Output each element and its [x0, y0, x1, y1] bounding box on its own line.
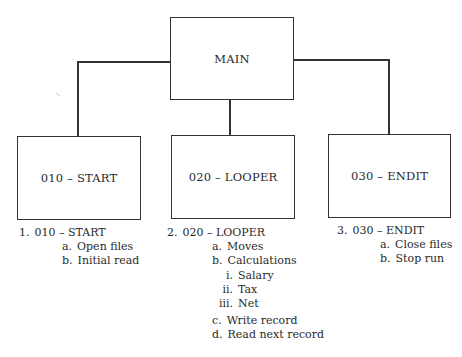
stray-mark: [55, 92, 60, 97]
connector-main-to-start-horizontal: [77, 61, 171, 63]
outline-endit: 3.030 – ENDIT a.Close files b.Stop run: [337, 224, 452, 266]
outline-item: a.Close files: [337, 238, 452, 252]
outline-item: b.Calculations: [167, 254, 324, 268]
outline-looper: 2.020 – LOOPER a.Moves b.Calculations i.…: [167, 226, 324, 342]
connector-main-to-endit-horizontal: [292, 59, 390, 61]
node-main: MAIN: [170, 17, 294, 100]
outline-item: b.Initial read: [19, 254, 139, 268]
connector-main-to-looper-vertical: [229, 98, 231, 136]
outline-heading: 1.010 – START: [19, 226, 139, 240]
node-endit: 030 – ENDIT: [328, 134, 451, 218]
connector-main-to-start-vertical: [77, 61, 79, 137]
outline-number: 1.: [19, 226, 30, 240]
node-looper-label: 020 – LOOPER: [189, 170, 278, 184]
node-looper: 020 – LOOPER: [171, 135, 295, 219]
outline-item: c.Write record: [167, 314, 324, 328]
outline-subitem: i.Salary: [167, 269, 324, 283]
outline-item: a.Moves: [167, 240, 324, 254]
outline-subitem: iii.Net: [167, 297, 324, 311]
node-main-label: MAIN: [214, 52, 250, 66]
outline-subitem: ii.Tax: [167, 283, 324, 297]
outline-title: 010 – START: [35, 226, 106, 239]
node-endit-label: 030 – ENDIT: [351, 169, 428, 183]
outline-item: a.Open files: [19, 240, 139, 254]
outline-title: 030 – ENDIT: [353, 224, 425, 237]
connector-main-to-endit-vertical: [388, 59, 390, 135]
outline-number: 3.: [337, 224, 348, 238]
node-start-label: 010 – START: [41, 171, 118, 185]
outline-number: 2.: [167, 226, 178, 240]
outline-start: 1.010 – START a.Open files b.Initial rea…: [19, 226, 139, 268]
outline-item: b.Stop run: [337, 252, 452, 266]
outline-heading: 2.020 – LOOPER: [167, 226, 324, 240]
outline-item: d.Read next record: [167, 328, 324, 342]
node-start: 010 – START: [17, 136, 141, 220]
outline-heading: 3.030 – ENDIT: [337, 224, 452, 238]
outline-title: 020 – LOOPER: [183, 226, 266, 239]
